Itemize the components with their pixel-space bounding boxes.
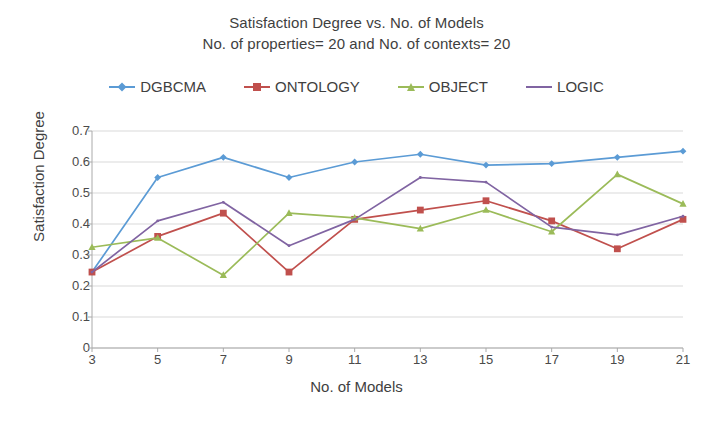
data-point-logic (222, 201, 225, 204)
data-point-object (482, 206, 489, 213)
plot-svg (0, 0, 713, 423)
data-point-logic (485, 181, 488, 184)
data-point-dgbcma (548, 160, 555, 167)
data-point-ontology (286, 269, 293, 276)
data-point-dgbcma (417, 151, 424, 158)
data-point-ontology (614, 245, 621, 252)
data-point-logic (156, 220, 159, 223)
data-point-object (614, 171, 621, 178)
data-point-dgbcma (286, 174, 293, 181)
data-point-ontology (417, 207, 424, 214)
data-point-dgbcma (483, 162, 490, 169)
data-point-logic (419, 176, 422, 179)
data-point-logic (682, 215, 685, 218)
data-point-ontology (220, 210, 227, 217)
data-point-logic (550, 226, 553, 229)
data-point-logic (288, 244, 291, 247)
data-point-ontology (483, 197, 490, 204)
data-point-dgbcma (680, 148, 687, 155)
data-point-dgbcma (220, 154, 227, 161)
chart-container: Satisfaction Degree vs. No. of Models No… (0, 0, 713, 423)
plot-area: Satisfaction Degree No. of Models 0.70.6… (0, 0, 713, 423)
data-point-dgbcma (351, 159, 358, 166)
data-point-ontology (548, 218, 555, 225)
data-point-dgbcma (614, 154, 621, 161)
series-line-object (92, 174, 683, 275)
series-line-dgbcma (92, 151, 683, 272)
data-point-logic (616, 233, 619, 236)
series-line-ontology (92, 201, 683, 272)
series-line-logic (92, 178, 683, 273)
data-point-logic (353, 218, 356, 221)
data-point-logic (91, 271, 94, 274)
